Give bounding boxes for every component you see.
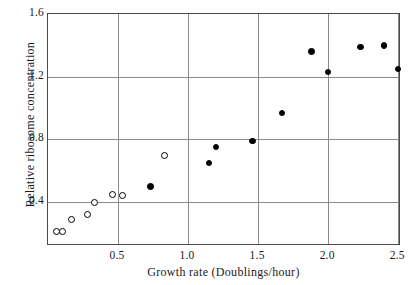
data-point <box>161 152 168 159</box>
data-point <box>68 216 75 223</box>
data-point <box>109 191 116 198</box>
data-point <box>308 48 315 55</box>
data-point <box>147 183 154 190</box>
data-point <box>325 69 332 76</box>
x-axis-tick-labels: 0.51.01.52.02.5 <box>47 250 400 266</box>
x-tick-label: 1.0 <box>167 250 207 262</box>
data-point <box>395 66 402 73</box>
gridline-x-1 <box>188 14 189 244</box>
y-axis-title: Relative ribosome concentration <box>24 9 37 241</box>
data-point <box>84 211 91 218</box>
data-point <box>279 110 286 117</box>
x-tick-label: 1.5 <box>237 250 277 262</box>
data-point <box>91 199 98 206</box>
scatter-chart-figure: 0.40.81.21.6 0.51.01.52.02.5 Growth rate… <box>0 0 417 285</box>
gridline-x-2.5 <box>398 14 399 244</box>
gridline-x-1.5 <box>258 14 259 244</box>
x-tick-label: 2.5 <box>377 250 417 262</box>
gridline-y-0.8 <box>48 139 399 140</box>
x-axis-title: Growth rate (Doublings/hour) <box>47 266 400 279</box>
gridline-y-0.4 <box>48 202 399 203</box>
data-point <box>213 144 220 151</box>
data-point <box>381 42 388 49</box>
data-point <box>357 44 364 51</box>
data-point <box>59 228 66 235</box>
gridline-y-1.2 <box>48 77 399 78</box>
y-tick-label: 1.6 <box>0 7 44 19</box>
plot-area <box>47 13 400 245</box>
data-point <box>206 160 213 167</box>
data-point <box>249 138 256 145</box>
x-tick-label: 0.5 <box>97 250 137 262</box>
x-tick-label: 2.0 <box>307 250 347 262</box>
gridline-x-2 <box>328 14 329 244</box>
gridline-x-0.5 <box>118 14 119 244</box>
data-point <box>119 192 126 199</box>
